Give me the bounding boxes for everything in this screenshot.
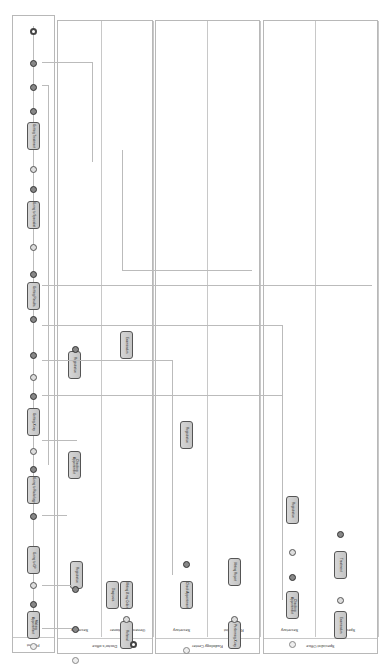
- task-check-appointment: Check Appointment: [180, 581, 193, 609]
- pool-specialist-office: Secretary Specialist Specialist Office R…: [263, 20, 378, 654]
- message-event: [30, 271, 37, 278]
- message-event: [72, 346, 79, 353]
- message-event: [30, 393, 37, 400]
- task-registration-specialist: Registration: [286, 496, 299, 524]
- pool-label-specialist-office: Specialist Office: [264, 638, 377, 653]
- intermediate-event: [30, 166, 37, 173]
- task-examination-specialist: Examination: [334, 611, 347, 639]
- message-event: [30, 108, 37, 115]
- intermediate-event: [30, 582, 37, 589]
- task-treatment: Treatment: [334, 551, 347, 579]
- message-event: [30, 84, 37, 91]
- lane-specialist: Specialist: [316, 21, 379, 637]
- intermediate-event: [337, 597, 344, 604]
- lane-specialist-secretary: Secretary: [264, 21, 316, 637]
- task-going-to-specialist: Going to Specialist: [27, 201, 40, 229]
- task-getting-treatment: Getting Treatment: [27, 122, 40, 150]
- message-event: [30, 352, 37, 359]
- task-getting-results: Getting Results: [27, 282, 40, 310]
- lane-secretary: Secretary: [58, 21, 102, 637]
- task-writing-report: Writing Report: [228, 558, 241, 586]
- task-writing-xray-order: Writing X-ray Order: [120, 581, 133, 609]
- lane-radiology-secretary: Secretary: [156, 21, 208, 637]
- task-going-to-gp: Going to GP: [27, 546, 40, 574]
- task-examination: Examination: [120, 331, 133, 359]
- start-event: [289, 641, 296, 648]
- message-event: [337, 531, 344, 538]
- pool-label-radiology-center: Radiology Center: [156, 638, 259, 653]
- lane-radiologist: Radiologist: [208, 21, 261, 637]
- message-event: [72, 626, 79, 633]
- lane-general-practitioner: General practitioner: [102, 21, 154, 637]
- task-making-appointment: Making Appointment: [27, 611, 40, 639]
- message-event: [30, 513, 37, 520]
- message-event: [30, 316, 37, 323]
- message-event: [72, 586, 79, 593]
- start-event: [30, 643, 37, 650]
- task-registration-radiology: Registration: [180, 421, 193, 449]
- intermediate-event: [30, 374, 37, 381]
- end-event: [130, 641, 137, 648]
- task-checking-appointment-specialist: Checking Appointment: [286, 591, 299, 619]
- start-event: [183, 647, 190, 654]
- task-performing-xray: Performing X-ray: [228, 621, 241, 649]
- task-diagnosis: Diagnosis: [106, 581, 119, 609]
- task-checking-appointment: Checking Appointment: [68, 451, 81, 479]
- message-event: [30, 60, 37, 67]
- pool-radiology-center: Secretary Radiologist Radiology Center R…: [155, 20, 260, 654]
- message-event: [289, 574, 296, 581]
- task-registration: Registration: [68, 351, 81, 379]
- message-event: [183, 561, 190, 568]
- message-event: [30, 466, 37, 473]
- intermediate-event: [289, 549, 296, 556]
- pool-doctors-office: Secretary General practitioner Doctor's …: [57, 20, 153, 654]
- start-event: [72, 657, 79, 664]
- end-event: [30, 28, 37, 35]
- task-getting-xray: Getting X-ray: [27, 408, 40, 436]
- message-event: [30, 601, 37, 608]
- intermediate-event: [123, 616, 130, 623]
- intermediate-event: [30, 244, 37, 251]
- task-going-to-radiology: Going to Radiology: [27, 476, 40, 504]
- pool-label-doctors-office: Doctor's office: [58, 638, 152, 653]
- intermediate-event: [30, 448, 37, 455]
- message-event: [30, 186, 37, 193]
- intermediate-event: [231, 616, 238, 623]
